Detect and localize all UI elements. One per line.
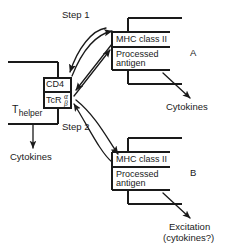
cd4-label: CD4 [46, 80, 64, 90]
apc-a-tag: A [190, 48, 196, 58]
apc-a-mhc-label: MHC class II [116, 35, 167, 45]
apc-b-antigen-line2: antigen [116, 179, 146, 189]
t-helper-label: Thelper [12, 104, 42, 118]
tcell-cytokines-label: Cytokines [10, 152, 52, 162]
step1-label: Step 1 [62, 10, 89, 20]
arrow-apc-b-to-tcr [74, 104, 112, 162]
tcr-label: TcR [46, 96, 62, 106]
arrow-apc-a-to-tcr [76, 44, 112, 90]
immunology-diagram: Step 1 Step 2 Thelper CD4 TcR α β Cytoki… [0, 0, 235, 248]
apc-b-excitation-line1: Excitation [169, 222, 210, 232]
arrow-tcr-to-apc-a [74, 50, 110, 96]
arrow-apc-b-excitation [163, 193, 190, 218]
apc-b-tag: B [190, 168, 196, 178]
apc-a-cytokines-label: Cytokines [166, 102, 208, 112]
t-helper-sub: helper [19, 108, 43, 118]
apc-b-excitation-line2: (cytokines?) [163, 233, 214, 243]
tcr-beta-label: β [64, 100, 68, 108]
arrow-step1-from-apc-a [70, 28, 106, 72]
apc-b-mhc-label: MHC class II [116, 155, 167, 165]
apc-a-antigen-line2: antigen [116, 59, 146, 69]
t-helper-main: T [12, 103, 18, 115]
step2-label: Step 2 [62, 122, 89, 132]
arrow-apc-a-cytokines [163, 73, 190, 98]
